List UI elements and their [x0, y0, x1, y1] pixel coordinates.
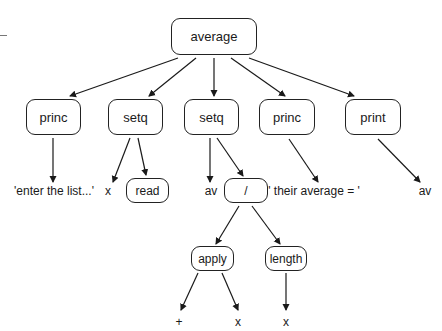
node-setq1: setq — [108, 99, 163, 135]
leaf-x2: x — [235, 315, 241, 329]
edge-div-to-length — [252, 206, 280, 244]
edge-print-to-av2 — [378, 139, 420, 182]
edge-princ2-to-str2 — [289, 139, 318, 182]
node-print: print — [345, 99, 401, 135]
node-princ1: princ — [26, 99, 81, 135]
node-average: average — [171, 18, 257, 55]
edge-average-to-setq1 — [149, 58, 196, 96]
edge-setq1-to-x1 — [113, 138, 130, 182]
node-read: read — [126, 178, 169, 203]
leaf-av2: av — [419, 184, 432, 198]
node-div: / — [224, 178, 268, 203]
leaf-x1: x — [105, 184, 111, 198]
edge-setq1-to-read — [138, 138, 146, 175]
node-princ2: princ — [259, 99, 315, 135]
edge-apply-to-x2 — [222, 273, 238, 310]
edge-apply-to-plus — [181, 273, 198, 310]
node-apply: apply — [191, 246, 234, 271]
leaf-x3: x — [283, 315, 289, 329]
edge-average-to-print — [249, 58, 354, 96]
edge-average-to-princ1 — [70, 58, 178, 96]
edge-div-to-apply — [216, 206, 239, 244]
leaf-av1: av — [205, 184, 218, 198]
leaf-str2: ' their average = ' — [268, 184, 360, 198]
edge-setq2-to-div — [217, 138, 243, 176]
leaf-str1: 'enter the list...' — [14, 184, 94, 198]
node-setq2: setq — [184, 99, 239, 135]
node-length: length — [265, 246, 307, 271]
leaf-plus: + — [175, 315, 182, 329]
edge-average-to-princ2 — [231, 58, 285, 96]
